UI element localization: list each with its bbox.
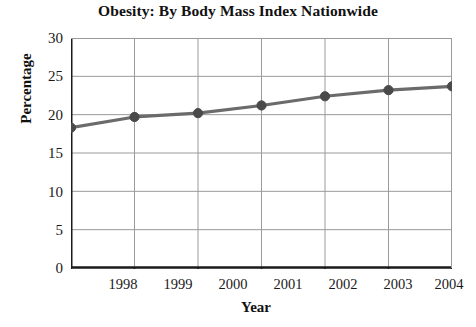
plot-svg bbox=[71, 38, 452, 269]
y-tick-label: 5 bbox=[29, 222, 63, 239]
chart-title: Obesity: By Body Mass Index Nationwide bbox=[0, 2, 476, 20]
x-tick-label: 2002 bbox=[316, 276, 370, 293]
data-point-marker bbox=[257, 101, 266, 110]
x-tick-label: 2004 bbox=[422, 276, 476, 293]
data-point-marker bbox=[71, 123, 76, 132]
data-point-marker bbox=[384, 86, 393, 95]
data-point-marker bbox=[447, 82, 452, 91]
x-tick-label: 2003 bbox=[371, 276, 425, 293]
x-tick-label: 1999 bbox=[151, 276, 205, 293]
y-tick-label: 20 bbox=[29, 107, 63, 124]
grid-lines bbox=[71, 38, 452, 268]
x-tick-label: 2001 bbox=[261, 276, 315, 293]
y-tick-label: 10 bbox=[29, 184, 63, 201]
data-point-marker bbox=[130, 112, 139, 121]
data-point-marker bbox=[193, 109, 202, 118]
data-point-marker bbox=[320, 92, 329, 101]
chart-figure: Obesity: By Body Mass Index Nationwide P… bbox=[0, 0, 476, 327]
y-tick-label: 15 bbox=[29, 145, 63, 162]
plot-area bbox=[71, 38, 452, 268]
y-tick-label: 30 bbox=[29, 30, 63, 47]
y-tick-label: 0 bbox=[29, 260, 63, 277]
x-tick-label: 1998 bbox=[96, 276, 150, 293]
x-axis-title: Year bbox=[60, 299, 452, 316]
x-tick-label: 2000 bbox=[206, 276, 260, 293]
y-tick-label: 25 bbox=[29, 68, 63, 85]
